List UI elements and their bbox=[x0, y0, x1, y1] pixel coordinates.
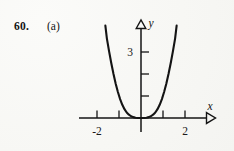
x-axis-arrowhead-icon bbox=[207, 113, 216, 124]
x-axis-label: x bbox=[206, 100, 213, 112]
figure-container: 60. (a) -2 2 3 x y bbox=[0, 0, 234, 151]
graph-plot: -2 2 3 x y bbox=[0, 0, 234, 151]
x-tick-label-neg-2: -2 bbox=[92, 125, 102, 137]
y-tick-label-3: 3 bbox=[127, 46, 133, 58]
x-tick-label-pos-2: 2 bbox=[182, 125, 188, 137]
y-axis-label: y bbox=[147, 17, 154, 30]
y-axis-arrowhead-icon bbox=[136, 20, 146, 29]
